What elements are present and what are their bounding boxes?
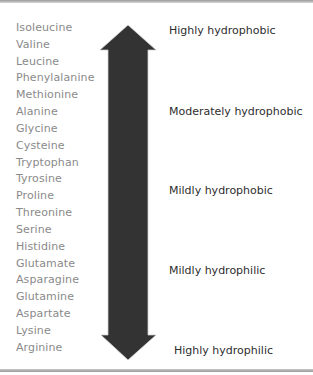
- amino-acid-item: Histidine: [16, 239, 95, 256]
- label-highly-hydrophilic: Highly hydrophilic: [174, 344, 273, 357]
- amino-acid-item: Arginine: [16, 340, 95, 357]
- amino-acid-item: Tryptophan: [16, 155, 95, 172]
- amino-acid-item: Leucine: [16, 54, 95, 71]
- amino-acid-item: Glycine: [16, 121, 95, 138]
- amino-acid-item: Phenylalanine: [16, 70, 95, 87]
- amino-acid-item: Isoleucine: [16, 20, 95, 37]
- amino-acid-item: Methionine: [16, 87, 95, 104]
- amino-acid-item: Cysteine: [16, 138, 95, 155]
- amino-acid-item: Aspartate: [16, 306, 95, 323]
- bottom-rule: [0, 369, 313, 372]
- amino-acid-list: Isoleucine Valine Leucine Phenylalanine …: [16, 20, 95, 357]
- amino-acid-item: Valine: [16, 37, 95, 54]
- label-moderately-hydrophobic: Moderately hydrophobic: [169, 105, 303, 118]
- amino-acid-item: Glutamine: [16, 289, 95, 306]
- amino-acid-item: Asparagine: [16, 272, 95, 289]
- amino-acid-item: Lysine: [16, 323, 95, 340]
- amino-acid-item: Proline: [16, 188, 95, 205]
- amino-acid-item: Tyrosine: [16, 171, 95, 188]
- label-highly-hydrophobic: Highly hydrophobic: [169, 24, 276, 37]
- amino-acid-item: Alanine: [16, 104, 95, 121]
- amino-acid-item: Glutamate: [16, 256, 95, 273]
- label-mildly-hydrophobic: Mildly hydrophobic: [169, 184, 273, 197]
- label-mildly-hydrophilic: Mildly hydrophilic: [169, 264, 265, 277]
- amino-acid-item: Threonine: [16, 205, 95, 222]
- amino-acid-item: Serine: [16, 222, 95, 239]
